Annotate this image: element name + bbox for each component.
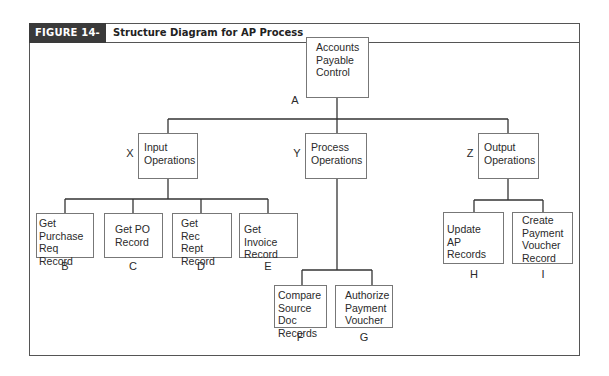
node-text: Payment	[522, 227, 563, 240]
node-text: Authorize	[345, 289, 383, 302]
node-letter: B	[58, 260, 72, 272]
node-text: Rec Rept	[181, 230, 223, 255]
node-letter: A	[288, 94, 302, 106]
node-text: Get PO	[115, 223, 152, 236]
node-get-po-record: Get PO Record	[104, 213, 163, 258]
node-letter: I	[536, 268, 550, 280]
node-text: Output	[484, 141, 534, 154]
node-text: Source Doc	[278, 302, 323, 327]
node-letter: G	[357, 331, 371, 343]
node-letter: Z	[463, 147, 477, 159]
node-letter: C	[126, 260, 140, 272]
node-text: Operations	[311, 154, 362, 167]
node-text: Payable	[316, 54, 364, 67]
node-text: Compare	[278, 289, 323, 302]
node-text: Update	[447, 223, 500, 236]
node-letter: F	[293, 331, 307, 343]
node-text: Process	[311, 141, 362, 154]
node-text: Record	[115, 236, 152, 249]
node-get-invoice-record: Get Invoice Record	[239, 213, 298, 258]
node-letter: E	[261, 260, 275, 272]
node-text: Payment	[345, 302, 383, 315]
node-text: Record	[522, 252, 563, 265]
node-letter: H	[467, 268, 481, 280]
node-get-rec-rept-record: Get Rec Rept Record	[172, 213, 232, 258]
node-text: Voucher	[345, 314, 383, 327]
node-text: AP Records	[447, 236, 500, 261]
node-compare-source-doc-records: Compare Source Doc Records	[274, 285, 327, 328]
node-text: Input	[144, 141, 193, 154]
node-text: Get	[181, 217, 223, 230]
node-text: Get Invoice	[244, 223, 293, 248]
node-letter: Y	[290, 147, 304, 159]
node-text: Accounts	[316, 41, 364, 54]
node-text: Voucher	[522, 239, 563, 252]
node-text: Get	[39, 217, 91, 230]
node-text: Operations	[144, 154, 193, 167]
node-get-purchase-req-record: Get Purchase Req Record	[36, 213, 94, 258]
node-accounts-payable-control: Accounts Payable Control	[306, 37, 369, 98]
node-letter: X	[123, 147, 137, 159]
node-input-operations: Input Operations	[138, 133, 198, 179]
node-output-operations: Output Operations	[478, 133, 539, 179]
node-update-ap-records: Update AP Records	[443, 212, 504, 264]
node-process-operations: Process Operations	[305, 133, 367, 179]
node-text: Control	[316, 66, 364, 79]
node-authorize-payment-voucher: Authorize Payment Voucher	[335, 285, 393, 328]
node-create-payment-voucher-record: Create Payment Voucher Record	[512, 212, 573, 264]
node-text: Operations	[484, 154, 534, 167]
node-letter: D	[194, 260, 208, 272]
node-text: Create	[522, 214, 563, 227]
node-text: Purchase	[39, 230, 91, 243]
node-text: Record	[244, 248, 293, 261]
